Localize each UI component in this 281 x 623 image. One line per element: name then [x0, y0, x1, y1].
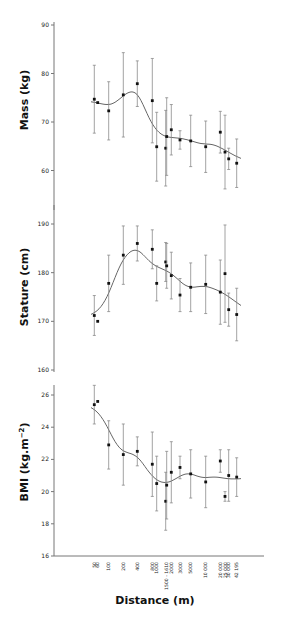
- x-tick-label: 5000: [188, 562, 193, 574]
- data-point: [179, 139, 182, 142]
- data-point: [235, 162, 238, 165]
- data-point: [96, 400, 99, 403]
- data-point: [93, 403, 96, 406]
- data-point: [107, 282, 110, 285]
- panel-bmi: 161820222426BMI (kg.m−2): [18, 385, 241, 559]
- data-point: [107, 444, 110, 447]
- x-tick-label: 100: [106, 562, 111, 571]
- y-tick-label: 160: [38, 366, 50, 373]
- data-point: [96, 101, 99, 104]
- data-point: [219, 131, 222, 134]
- data-point: [227, 308, 230, 311]
- data-point: [122, 254, 125, 257]
- x-tick-label: 42 195: [234, 562, 239, 578]
- y-tick-label: 190: [38, 220, 50, 227]
- data-point: [122, 453, 125, 456]
- data-point: [189, 472, 192, 475]
- multi-panel-chart: 60708090Mass (kg) 160170180190Stature (c…: [0, 0, 281, 623]
- y-axis-label: Mass (kg): [18, 70, 31, 131]
- data-point: [136, 450, 139, 453]
- data-point: [235, 313, 238, 316]
- x-axis-label: Distance (m): [115, 594, 194, 607]
- x-axis: 506010020040080010001500 - 1610200030005…: [54, 556, 264, 590]
- x-tick-label: 400: [135, 562, 140, 571]
- y-tick-label: 70: [41, 118, 49, 125]
- x-tick-label: 60: [95, 562, 100, 568]
- y-tick-label: 24: [41, 423, 49, 430]
- fit-line: [91, 408, 241, 483]
- y-tick-label: 80: [41, 70, 49, 77]
- data-point: [122, 93, 125, 96]
- y-axis-label: BMI (kg.m−2): [18, 423, 31, 502]
- data-point: [204, 145, 207, 148]
- data-point: [151, 99, 154, 102]
- data-point: [235, 476, 238, 479]
- data-point: [227, 157, 230, 160]
- panel-stature: 160170180190Stature (cm): [18, 205, 241, 373]
- data-point: [136, 242, 139, 245]
- data-point: [179, 294, 182, 297]
- data-point: [165, 135, 168, 138]
- data-point: [170, 128, 173, 131]
- data-point: [179, 466, 182, 469]
- y-tick-label: 90: [41, 21, 49, 28]
- data-point: [136, 82, 139, 85]
- data-point: [155, 145, 158, 148]
- data-point: [189, 286, 192, 289]
- data-point: [93, 314, 96, 317]
- data-point: [155, 482, 158, 485]
- data-point: [219, 460, 222, 463]
- y-tick-label: 170: [38, 317, 50, 324]
- data-point: [224, 272, 227, 275]
- data-point: [189, 140, 192, 143]
- y-tick-label: 60: [41, 167, 49, 174]
- y-tick-label: 180: [38, 269, 50, 276]
- data-point: [204, 481, 207, 484]
- data-point: [96, 320, 99, 323]
- x-tick-label: 3000: [178, 562, 183, 574]
- data-point: [151, 463, 154, 466]
- data-point: [227, 474, 230, 477]
- data-point: [170, 471, 173, 474]
- figure: 60708090Mass (kg) 160170180190Stature (c…: [0, 0, 281, 623]
- data-point: [155, 282, 158, 285]
- y-axis-label: Stature (cm): [18, 248, 31, 326]
- y-tick-label: 26: [41, 391, 49, 398]
- data-point: [204, 283, 207, 286]
- data-point: [224, 151, 227, 154]
- data-point: [151, 248, 154, 251]
- x-tick-label: 30 000: [226, 562, 231, 578]
- data-point: [165, 264, 168, 267]
- data-point: [165, 484, 168, 487]
- data-point: [219, 291, 222, 294]
- x-tick-label: 1000: [154, 562, 159, 574]
- y-tick-label: 18: [41, 520, 49, 527]
- data-point: [107, 109, 110, 112]
- data-point: [170, 274, 173, 277]
- x-tick-label: 10 000: [203, 562, 208, 578]
- y-tick-label: 16: [41, 552, 49, 559]
- data-point: [93, 98, 96, 101]
- x-tick-label: 200: [121, 562, 126, 571]
- y-tick-label: 20: [41, 488, 49, 495]
- panel-mass: 60708090Mass (kg): [18, 21, 241, 210]
- y-tick-label: 22: [41, 455, 49, 462]
- data-point: [224, 495, 227, 498]
- x-tick-label: 2000: [169, 562, 174, 574]
